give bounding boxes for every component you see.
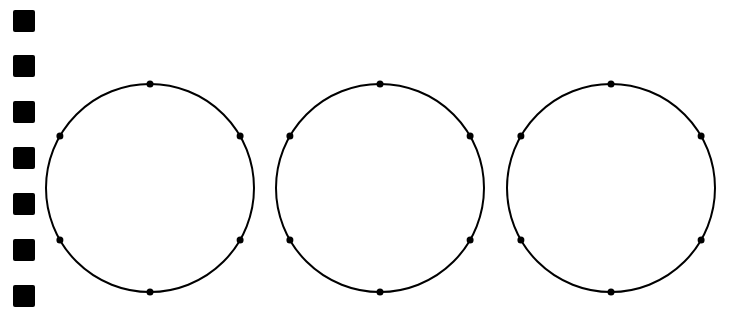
circle-outline	[46, 84, 254, 292]
vertex-dot	[377, 81, 384, 88]
circle-group	[276, 81, 484, 296]
vertex-dot	[467, 133, 474, 140]
vertex-dot	[147, 289, 154, 296]
vertex-dot	[608, 289, 615, 296]
vertex-dot	[56, 237, 63, 244]
vertex-dot	[237, 133, 244, 140]
circle-outline	[507, 84, 715, 292]
circle-diagram	[0, 0, 743, 319]
vertex-dot	[286, 237, 293, 244]
circle-outline	[276, 84, 484, 292]
vertex-dot	[237, 237, 244, 244]
vertex-dot	[698, 133, 705, 140]
vertex-dot	[698, 237, 705, 244]
vertex-dot	[467, 237, 474, 244]
vertex-dot	[56, 133, 63, 140]
circle-group	[46, 81, 254, 296]
vertex-dot	[377, 289, 384, 296]
circle-group	[507, 81, 715, 296]
vertex-dot	[517, 133, 524, 140]
diagram-canvas	[0, 0, 743, 319]
vertex-dot	[286, 133, 293, 140]
vertex-dot	[147, 81, 154, 88]
vertex-dot	[608, 81, 615, 88]
vertex-dot	[517, 237, 524, 244]
